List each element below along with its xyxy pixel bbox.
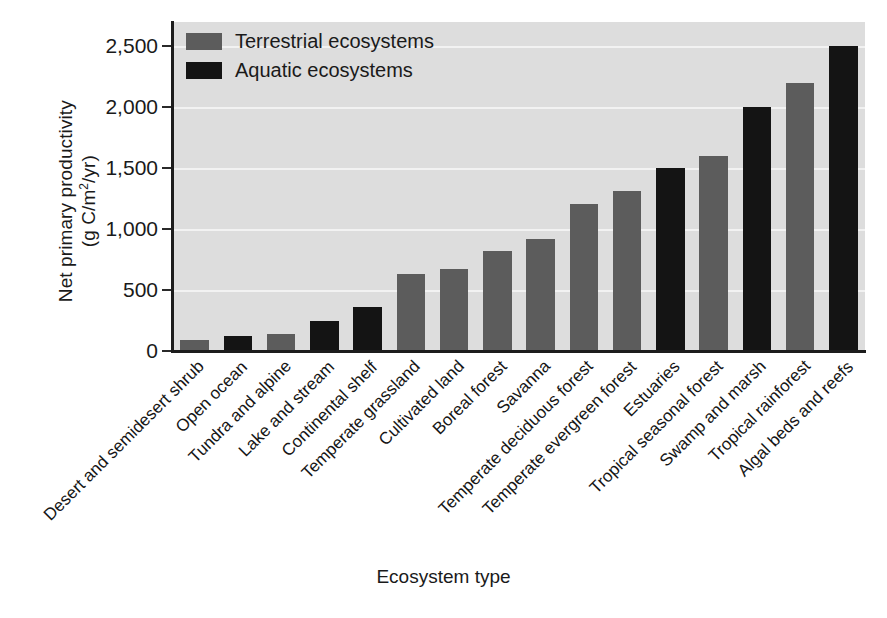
y-axis-tick-label: 500 <box>123 278 158 302</box>
bar[interactable] <box>353 307 382 351</box>
bar[interactable] <box>829 46 858 351</box>
legend-item-terrestrial[interactable]: Terrestrial ecosystems <box>186 28 434 54</box>
legend-label-aquatic: Aquatic ecosystems <box>235 59 413 82</box>
bar[interactable] <box>483 251 512 351</box>
bar[interactable] <box>267 334 296 351</box>
bar[interactable] <box>526 239 555 351</box>
y-axis-tick-label: 2,000 <box>105 95 158 119</box>
bar[interactable] <box>699 156 728 351</box>
bar[interactable] <box>310 321 339 351</box>
legend-swatch-terrestrial <box>186 33 222 50</box>
bar-chart: Net primary productivity (g C/m2/yr) 050… <box>0 0 887 618</box>
y-axis-tick-label: 1,000 <box>105 217 158 241</box>
bar[interactable] <box>440 269 469 351</box>
bar[interactable] <box>613 191 642 351</box>
bar[interactable] <box>743 107 772 351</box>
bar[interactable] <box>397 274 426 351</box>
bar[interactable] <box>570 204 599 351</box>
y-axis-tick-label: 1,500 <box>105 156 158 180</box>
legend: Terrestrial ecosystemsAquatic ecosystems <box>186 28 434 86</box>
legend-label-terrestrial: Terrestrial ecosystems <box>235 30 434 53</box>
y-axis-tick-labels: 05001,0001,5002,0002,500 <box>60 0 158 618</box>
y-axis-tick-label: 2,500 <box>105 34 158 58</box>
y-axis-tick-label: 0 <box>146 339 158 363</box>
x-axis-title: Ecosystem type <box>0 566 887 588</box>
legend-swatch-aquatic <box>186 62 222 79</box>
bar[interactable] <box>786 83 815 351</box>
legend-item-aquatic[interactable]: Aquatic ecosystems <box>186 57 434 83</box>
x-axis-line <box>171 350 866 353</box>
y-axis-line <box>171 21 174 352</box>
bar[interactable] <box>656 168 685 351</box>
bar[interactable] <box>224 336 253 351</box>
